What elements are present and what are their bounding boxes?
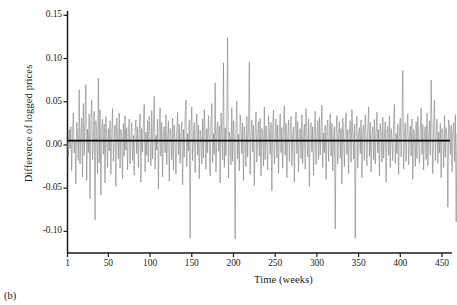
- x-tick-label: 250: [255, 258, 295, 268]
- x-tick-label: 300: [297, 258, 337, 268]
- x-tick-label: 200: [213, 258, 253, 268]
- figure-panel-b: Difference of logged prices 0.150.100.05…: [0, 0, 457, 305]
- x-tick-label: 450: [422, 258, 457, 268]
- x-tick-label: 350: [339, 258, 379, 268]
- x-axis-label-text: Time (weeks): [254, 274, 313, 285]
- x-tick-label: 150: [172, 258, 212, 268]
- x-axis-label: Time (weeks): [0, 274, 457, 285]
- x-tick-label: 100: [130, 258, 170, 268]
- x-tick-label: 50: [88, 258, 128, 268]
- x-tick-label: 1: [48, 258, 88, 268]
- data-series-line: [68, 38, 457, 239]
- x-axis-tick-labels: 150100150200250300350400450: [0, 258, 457, 274]
- x-tick-label: 400: [380, 258, 420, 268]
- panel-label: (b): [4, 290, 16, 301]
